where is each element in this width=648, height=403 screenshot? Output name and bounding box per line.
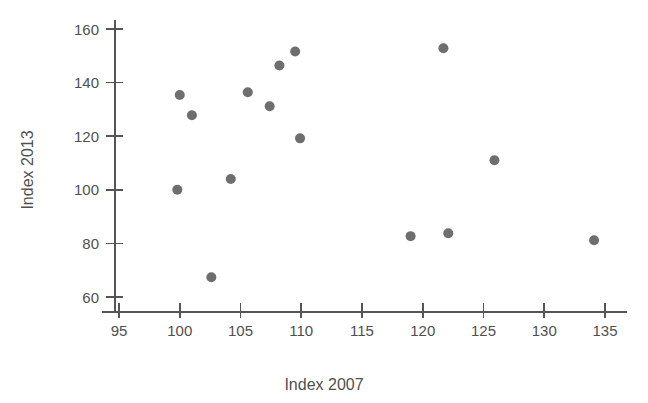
y-axis-tick-label: 100 bbox=[74, 181, 99, 198]
x-axis-tick-label: 105 bbox=[228, 322, 253, 339]
x-axis-tick-label: 120 bbox=[410, 322, 435, 339]
y-axis-tick-label: 140 bbox=[74, 74, 99, 91]
data-point bbox=[295, 133, 305, 143]
data-point bbox=[226, 174, 236, 184]
data-points-layer bbox=[172, 43, 599, 282]
y-axis-tick-label: 80 bbox=[82, 235, 99, 252]
data-point bbox=[438, 43, 448, 53]
x-axis: 95100105110115120125130135 bbox=[102, 303, 627, 339]
scatter-chart-figure: 6080100120140160 95100105110115120125130… bbox=[0, 0, 648, 403]
x-axis-tick-label: 95 bbox=[111, 322, 128, 339]
data-point bbox=[187, 110, 197, 120]
data-point bbox=[172, 185, 182, 195]
x-axis-tick-label: 135 bbox=[592, 322, 617, 339]
x-axis-tick-label: 100 bbox=[167, 322, 192, 339]
x-axis-tick-label: 110 bbox=[289, 322, 313, 339]
y-axis-tick-label: 120 bbox=[74, 128, 99, 145]
x-axis-tick-label: 125 bbox=[471, 322, 496, 339]
plot-canvas: 6080100120140160 95100105110115120125130… bbox=[0, 0, 648, 403]
data-point bbox=[406, 231, 416, 241]
x-axis-title: Index 2007 bbox=[284, 376, 363, 393]
y-axis-tick-label: 160 bbox=[74, 21, 99, 38]
data-point bbox=[206, 272, 216, 282]
x-axis-tick-label: 130 bbox=[532, 322, 557, 339]
data-point bbox=[589, 235, 599, 245]
y-axis: 6080100120140160 bbox=[74, 20, 123, 312]
data-point bbox=[274, 60, 284, 70]
y-axis-title: Index 2013 bbox=[19, 130, 36, 209]
data-point bbox=[443, 228, 453, 238]
data-point bbox=[265, 101, 275, 111]
data-point bbox=[243, 87, 253, 97]
data-point bbox=[175, 90, 185, 100]
data-point bbox=[489, 155, 499, 165]
y-axis-tick-label: 60 bbox=[82, 289, 99, 306]
data-point bbox=[290, 47, 300, 57]
x-axis-tick-label: 115 bbox=[350, 322, 374, 339]
